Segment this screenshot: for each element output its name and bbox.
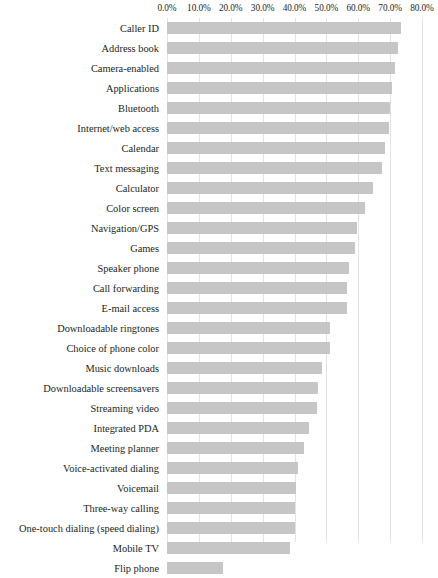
category-label-row: Internet/web access [0, 118, 163, 138]
category-label: Choice of phone color [66, 342, 159, 355]
category-label-row: Bluetooth [0, 98, 163, 118]
x-tick-label: 20.0% [219, 2, 243, 14]
bar [167, 202, 365, 214]
bar [167, 382, 318, 394]
table-row [167, 18, 422, 38]
table-row [167, 478, 422, 498]
category-label: Games [130, 242, 159, 255]
bar [167, 462, 298, 474]
bar [167, 242, 355, 254]
category-label: Music downloads [85, 362, 159, 375]
table-row [167, 458, 422, 478]
x-tick-label: 30.0% [251, 2, 275, 14]
bar [167, 262, 349, 274]
x-tick-label: 60.0% [346, 2, 370, 14]
category-label: Caller ID [120, 22, 159, 35]
category-label: Color screen [106, 202, 159, 215]
category-label-row: Applications [0, 78, 163, 98]
category-label-row: Call forwarding [0, 278, 163, 298]
category-label: Bluetooth [118, 102, 159, 115]
x-axis-top: 0.0%10.0%20.0%30.0%40.0%50.0%60.0%70.0%8… [0, 0, 438, 18]
table-row [167, 558, 422, 578]
bar [167, 482, 296, 494]
category-label: Calculator [116, 182, 159, 195]
category-label: Downloadable screensavers [43, 382, 159, 395]
category-label: E-mail access [102, 302, 159, 315]
category-label: Flip phone [114, 562, 159, 575]
category-label: One-touch dialing (speed dialing) [19, 522, 159, 535]
category-label: Internet/web access [77, 122, 159, 135]
bar [167, 442, 304, 454]
category-label-row: Downloadable screensavers [0, 378, 163, 398]
category-label-row: Voicemail [0, 478, 163, 498]
table-row [167, 338, 422, 358]
bar [167, 402, 317, 414]
bar [167, 542, 290, 554]
bar [167, 322, 330, 334]
category-label-row: Text messaging [0, 158, 163, 178]
category-label: Mobile TV [113, 542, 159, 555]
category-label-row: Address book [0, 38, 163, 58]
category-label-row: One-touch dialing (speed dialing) [0, 518, 163, 538]
category-label-row: Streaming video [0, 398, 163, 418]
table-row [167, 418, 422, 438]
bar [167, 182, 373, 194]
category-label-row: Games [0, 238, 163, 258]
category-label: Streaming video [91, 402, 159, 415]
x-tick-label: 70.0% [378, 2, 402, 14]
table-row [167, 398, 422, 418]
category-label-row: Calculator [0, 178, 163, 198]
category-label-row: E-mail access [0, 298, 163, 318]
table-row [167, 258, 422, 278]
category-label: Calendar [121, 142, 159, 155]
category-label-row: Three-way calling [0, 498, 163, 518]
category-label: Three-way calling [83, 502, 159, 515]
bar [167, 102, 390, 114]
bar [167, 82, 392, 94]
x-tick-label: 10.0% [187, 2, 211, 14]
category-label: Voicemail [117, 482, 159, 495]
category-label-row: Voice-activated dialing [0, 458, 163, 478]
bar [167, 302, 347, 314]
category-label: Applications [106, 82, 159, 95]
table-row [167, 118, 422, 138]
bar [167, 142, 385, 154]
x-tick-label: 80.0% [410, 2, 434, 14]
category-label-row: Integrated PDA [0, 418, 163, 438]
bar [167, 42, 398, 54]
table-row [167, 158, 422, 178]
bar [167, 222, 357, 234]
bar [167, 122, 389, 134]
bar [167, 342, 330, 354]
category-label: Address book [102, 42, 159, 55]
table-row [167, 78, 422, 98]
category-label-row: Downloadable ringtones [0, 318, 163, 338]
category-label-row: Color screen [0, 198, 163, 218]
category-label-row: Calendar [0, 138, 163, 158]
table-row [167, 318, 422, 338]
category-label-row: Flip phone [0, 558, 163, 578]
table-row [167, 178, 422, 198]
table-row [167, 218, 422, 238]
category-label: Text messaging [94, 162, 159, 175]
category-label: Call forwarding [93, 282, 159, 295]
bar [167, 502, 295, 514]
category-label: Voice-activated dialing [63, 462, 159, 475]
category-label: Meeting planner [91, 442, 159, 455]
table-row [167, 98, 422, 118]
category-label: Camera-enabled [91, 62, 159, 75]
bar-rows [167, 18, 422, 578]
bar [167, 362, 322, 374]
plot-area [167, 18, 422, 542]
table-row [167, 498, 422, 518]
table-row [167, 518, 422, 538]
category-label-row: Meeting planner [0, 438, 163, 458]
table-row [167, 278, 422, 298]
category-label-row: Navigation/GPS [0, 218, 163, 238]
bar [167, 562, 223, 574]
table-row [167, 138, 422, 158]
bar [167, 422, 309, 434]
table-row [167, 198, 422, 218]
table-row [167, 238, 422, 258]
bar [167, 162, 382, 174]
